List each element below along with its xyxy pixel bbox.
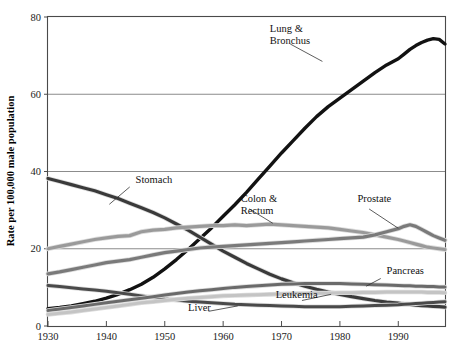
annotation-pancreas: Pancreas [387,265,424,276]
series-label-text-line2: Rectum [241,205,274,216]
series-label-text: Leukemia [276,289,318,300]
cancer-death-rate-chart: Rate per 100,000 male population 0204060… [0,0,461,350]
x-tick-label-1970: 1970 [271,331,292,342]
leader-line-lung-bronchus [290,44,322,61]
y-tick-label-0: 0 [36,321,41,332]
x-tick-label-1960: 1960 [213,331,234,342]
x-tick-group: 1930194019501960197019801990 [38,321,409,342]
series-label-text: Lung & [270,23,303,34]
x-tick-label-1950: 1950 [154,331,175,342]
y-tick-label-40: 40 [31,166,42,177]
data-series-group [48,39,445,315]
series-label-text: Colon & [241,193,277,204]
chart-svg: Rate per 100,000 male population 0204060… [0,0,461,350]
series-label-text: Stomach [136,174,173,185]
series-line-prostate [48,225,445,274]
y-tick-group: 020406080 [31,12,49,332]
series-label-text: Liver [188,302,211,313]
annotation-lung-bronchus: Lung &Bronchus [270,23,310,46]
annotation-leukemia: Leukemia [276,289,318,300]
leader-line-liver [209,306,238,311]
annotation-colon-rectum: Colon &Rectum [241,193,277,216]
x-tick-label-1940: 1940 [96,331,117,342]
series-label-text-line2: Bronchus [270,35,310,46]
y-axis-title: Rate per 100,000 male population [5,96,16,247]
annotation-prostate: Prostate [357,193,391,204]
y-tick-label-80: 80 [31,12,42,23]
y-tick-label-20: 20 [31,243,42,254]
series-line-lung-bronchus [48,39,445,309]
series-label-text: Prostate [357,193,391,204]
annotation-liver: Liver [188,302,211,313]
y-tick-label-60: 60 [31,89,42,100]
x-tick-label-1980: 1980 [329,331,350,342]
leader-line-prostate [369,209,398,228]
series-label-text: Pancreas [387,265,424,276]
x-tick-label-1930: 1930 [38,331,59,342]
annotation-stomach: Stomach [136,174,173,185]
x-tick-label-1990: 1990 [388,331,409,342]
